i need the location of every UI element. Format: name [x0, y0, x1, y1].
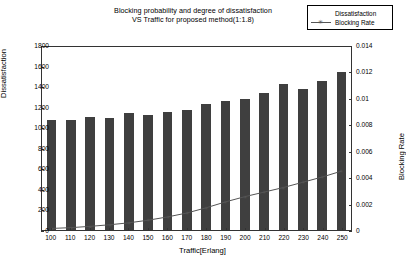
y-tick-right	[349, 205, 352, 206]
x-tick	[187, 228, 188, 231]
plot-area: ✳✳✳✳✳✳✳✳✳✳✳✳✳✳✳✳	[41, 46, 352, 231]
blocking-rate-marker-150: ✳	[146, 217, 150, 223]
y-axis-left-title: Dissatisfaction	[0, 49, 8, 98]
y-tick-label-left-400: 400	[19, 186, 49, 193]
y-tick-label-right-0.01: 0.01	[356, 95, 390, 102]
y-tick-label-left-600: 600	[19, 165, 49, 172]
y-tick-label-left-200: 200	[19, 206, 49, 213]
blocking-rate-marker-240: ✳	[320, 174, 324, 180]
y-tick-right	[349, 152, 352, 153]
x-tick	[51, 228, 52, 231]
x-tick	[70, 228, 71, 231]
blocking-rate-marker-180: ✳	[204, 205, 208, 211]
y-tick-label-right-0.014: 0.014	[356, 42, 390, 49]
y-tick-label-left-1600: 1600	[19, 63, 49, 70]
x-axis-title: Traffic[Erlang]	[0, 246, 405, 255]
blocking-rate-marker-170: ✳	[185, 210, 189, 216]
y-axis-right-title: Blocking Rate	[397, 133, 406, 180]
y-tick-label-right-0.002: 0.002	[356, 201, 390, 208]
y-tick-label-right-0.004: 0.004	[356, 174, 390, 181]
x-tick	[284, 228, 285, 231]
x-tick	[90, 228, 91, 231]
x-tick	[109, 228, 110, 231]
x-tick-label-250: 250	[331, 234, 353, 241]
legend-item-blocking-rate: ✳ Blocking Rate	[311, 18, 389, 26]
x-tick	[167, 228, 168, 231]
y-tick-right	[349, 99, 352, 100]
y-tick-right	[349, 178, 352, 179]
y-tick-label-left-1400: 1400	[19, 83, 49, 90]
y-tick-label-left-1800: 1800	[19, 42, 49, 49]
legend-bar-swatch-icon	[311, 9, 331, 17]
y-tick-right	[349, 46, 352, 47]
y-tick-label-right-0.006: 0.006	[356, 148, 390, 155]
blocking-rate-marker-160: ✳	[166, 214, 170, 220]
x-tick	[265, 228, 266, 231]
blocking-rate-marker-210: ✳	[262, 189, 266, 195]
blocking-rate-marker-140: ✳	[127, 220, 131, 226]
chart-legend: Dissatisfaction ✳ Blocking Rate	[307, 5, 393, 30]
chart-title: Blocking probability and degree of dissa…	[88, 6, 298, 25]
legend-label-blocking-rate: Blocking Rate	[335, 19, 374, 26]
y-tick-label-left-1200: 1200	[19, 104, 49, 111]
legend-line-marker-icon: ✳	[311, 18, 331, 26]
blocking-rate-marker-200: ✳	[243, 194, 247, 200]
chart-title-line-2: VS Traffic for proposed method(1:1.8)	[88, 15, 298, 24]
x-tick	[206, 228, 207, 231]
legend-label-dissatisfaction: Dissatisfaction	[335, 10, 376, 17]
y-tick-label-right-0.012: 0.012	[356, 68, 390, 75]
y-tick-right	[349, 231, 352, 232]
y-tick-label-left-1000: 1000	[19, 124, 49, 131]
blocking-rate-marker-220: ✳	[281, 185, 285, 191]
y-tick-label-left-800: 800	[19, 145, 49, 152]
y-tick-label-right-0.008: 0.008	[356, 121, 390, 128]
x-tick	[342, 228, 343, 231]
y-tick-label-left-0: 0	[19, 227, 49, 234]
chart-title-line-1: Blocking probability and degree of dissa…	[88, 6, 298, 15]
y-tick-label-right-0: 0	[356, 227, 390, 234]
blocking-rate-marker-190: ✳	[223, 199, 227, 205]
line-series-blocking-rate: ✳✳✳✳✳✳✳✳✳✳✳✳✳✳✳✳	[42, 47, 351, 230]
x-tick	[245, 228, 246, 231]
x-tick	[303, 228, 304, 231]
blocking-rate-marker-230: ✳	[301, 179, 305, 185]
legend-item-dissatisfaction: Dissatisfaction	[311, 9, 389, 17]
y-tick-right	[349, 125, 352, 126]
x-tick	[323, 228, 324, 231]
blocking-rate-marker-250: ✳	[339, 168, 343, 174]
x-tick	[226, 228, 227, 231]
blocking-rate-polyline	[52, 171, 342, 228]
x-tick	[148, 228, 149, 231]
y-tick-right	[349, 72, 352, 73]
x-tick	[128, 228, 129, 231]
